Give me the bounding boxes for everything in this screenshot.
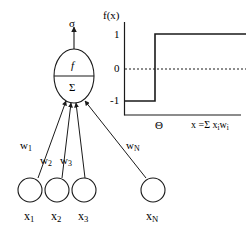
x-expr-prefix: x = <box>191 119 204 130</box>
step-function-curve <box>125 34 246 101</box>
plot-y-tick-zero: 0 <box>114 63 120 74</box>
input-label-xN: xN <box>146 210 158 224</box>
input-node-x3 <box>72 178 96 202</box>
weight-label-w2: w2 <box>40 155 52 168</box>
input-label-xN-sub: N <box>152 214 158 224</box>
weight-label-wN-sub: N <box>134 144 140 153</box>
plot-y-tick-minus-one: -1 <box>110 95 119 106</box>
weight-label-wN: wN <box>126 140 140 153</box>
weight-label-w3: w3 <box>60 155 72 168</box>
weight-label-wN-base: w <box>126 139 134 151</box>
neuron-activation-figure: σ f Σ w1 w2 w3 wN x1 x2 x3 xN f(x) 1 0 -… <box>0 0 250 231</box>
neuron-body <box>54 49 94 103</box>
weight-label-w3-base: w <box>60 154 68 166</box>
input-label-x3-sub: 3 <box>84 214 88 224</box>
weight-label-w3-sub: 3 <box>68 159 72 168</box>
summation-label: Σ <box>69 82 75 93</box>
weight-label-w1-sub: 1 <box>28 144 32 153</box>
input-node-x2 <box>45 178 69 202</box>
input-label-x1-sub: 1 <box>30 214 34 224</box>
plot-threshold-label: Θ <box>155 120 163 131</box>
input-label-x1: x1 <box>24 210 34 224</box>
plot-y-tick-one: 1 <box>114 29 120 40</box>
plot-y-axis-label: f(x) <box>103 10 120 21</box>
weight-label-w1-base: w <box>20 139 28 151</box>
input-label-x3: x3 <box>78 210 88 224</box>
x-expr-term2-sub: i <box>227 124 229 132</box>
weight-label-w2-base: w <box>40 154 48 166</box>
x-expr-sum: Σ <box>204 119 210 130</box>
connection-w3 <box>76 103 85 178</box>
weight-label-w2-sub: 2 <box>48 159 52 168</box>
input-node-x1 <box>18 178 42 202</box>
activation-function-label: f <box>71 60 74 71</box>
input-node-xN <box>141 178 165 202</box>
plot-x-axis-expression: x =Σ xiwi <box>191 120 229 132</box>
input-label-x2-sub: 2 <box>57 214 61 224</box>
input-label-x2: x2 <box>51 210 61 224</box>
figure-vector-layer <box>0 0 250 231</box>
neuron-output-label: σ <box>69 18 75 29</box>
x-expr-term2-base: w <box>219 119 226 130</box>
weight-label-w1: w1 <box>20 140 32 153</box>
input-nodes <box>18 178 165 202</box>
